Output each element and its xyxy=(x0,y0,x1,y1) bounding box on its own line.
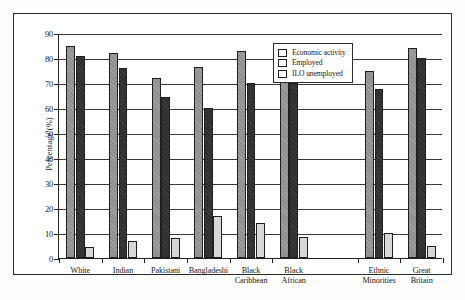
y-axis-tick-label: 70 xyxy=(45,80,53,89)
bar xyxy=(408,48,417,258)
legend-item-ilo-unemployed: ILO unemployed xyxy=(278,69,346,79)
bar xyxy=(417,58,426,258)
x-axis-tick xyxy=(400,258,401,263)
bar xyxy=(204,108,213,258)
y-axis-tick-label: 90 xyxy=(45,30,53,39)
bar xyxy=(247,83,256,258)
plot-area: 0102030405060708090 WhiteIndianPakistani… xyxy=(58,34,442,259)
legend-swatch-icon xyxy=(278,59,287,67)
bar xyxy=(299,237,308,258)
x-axis-tick xyxy=(102,258,103,263)
bar xyxy=(365,71,374,259)
x-axis-tick-label: Bangladeshi xyxy=(189,266,228,276)
bar xyxy=(171,238,180,258)
bar xyxy=(375,89,384,258)
bar xyxy=(194,67,203,258)
bar xyxy=(289,83,298,258)
legend-label: Economic activity xyxy=(292,49,346,57)
bar-group xyxy=(400,34,443,258)
x-axis-tick xyxy=(230,258,231,263)
bar xyxy=(85,247,94,258)
bar-group xyxy=(144,34,187,258)
legend-label: ILO unemployed xyxy=(292,70,343,78)
x-axis-tick xyxy=(59,258,60,263)
legend-swatch-icon xyxy=(278,49,287,57)
bar xyxy=(161,97,170,258)
x-axis-tick xyxy=(144,258,145,263)
y-axis-tick-label: 40 xyxy=(45,155,53,164)
x-axis-tick-label: Great Britain xyxy=(411,266,433,285)
bar xyxy=(119,68,128,258)
bar xyxy=(128,241,137,259)
y-axis-tick-label: 20 xyxy=(45,205,53,214)
bar-group xyxy=(187,34,230,258)
x-axis-tick-label: Ethnic Minorities xyxy=(362,266,395,285)
x-axis-tick-label: Black African xyxy=(282,266,306,285)
x-axis-tick xyxy=(358,258,359,263)
x-axis-tick-label: Indian xyxy=(113,266,133,276)
figure-border: Percentage (%) 0102030405060708090 White… xyxy=(13,13,452,275)
x-axis-tick xyxy=(187,258,188,263)
bar xyxy=(109,53,118,258)
bar xyxy=(76,56,85,259)
bar-group xyxy=(358,34,401,258)
bar-group xyxy=(230,34,273,258)
bar xyxy=(213,216,222,259)
legend-item-economic-activity: Economic activity xyxy=(278,48,346,58)
legend-label: Employed xyxy=(292,59,322,67)
bar xyxy=(237,51,246,259)
x-axis-tick xyxy=(272,258,273,263)
x-axis-tick-label: Pakistani xyxy=(151,266,180,276)
chart-legend: Economic activity Employed ILO unemploye… xyxy=(273,43,353,83)
x-axis-tick-label: Black Caribbean xyxy=(235,266,268,285)
legend-swatch-icon xyxy=(278,70,287,78)
chart-canvas: Percentage (%) 0102030405060708090 White… xyxy=(14,14,451,274)
x-axis-tick xyxy=(443,258,444,263)
x-axis-tick-label: White xyxy=(71,266,91,276)
y-axis-tick-label: 80 xyxy=(45,55,53,64)
y-axis-tick-label: 50 xyxy=(45,130,53,139)
bar-group xyxy=(59,34,102,258)
legend-item-employed: Employed xyxy=(278,58,346,68)
bar xyxy=(256,223,265,258)
y-axis-tick-label: 0 xyxy=(49,255,53,264)
y-axis-tick-label: 30 xyxy=(45,180,53,189)
bar xyxy=(280,64,289,258)
y-axis-tick-label: 10 xyxy=(45,230,53,239)
figure-page: Percentage (%) 0102030405060708090 White… xyxy=(0,0,465,300)
y-axis-tick-label: 60 xyxy=(45,105,53,114)
bar xyxy=(152,78,161,258)
bar xyxy=(66,46,75,259)
bar xyxy=(427,246,436,259)
bar-group xyxy=(102,34,145,258)
bar xyxy=(384,233,393,258)
